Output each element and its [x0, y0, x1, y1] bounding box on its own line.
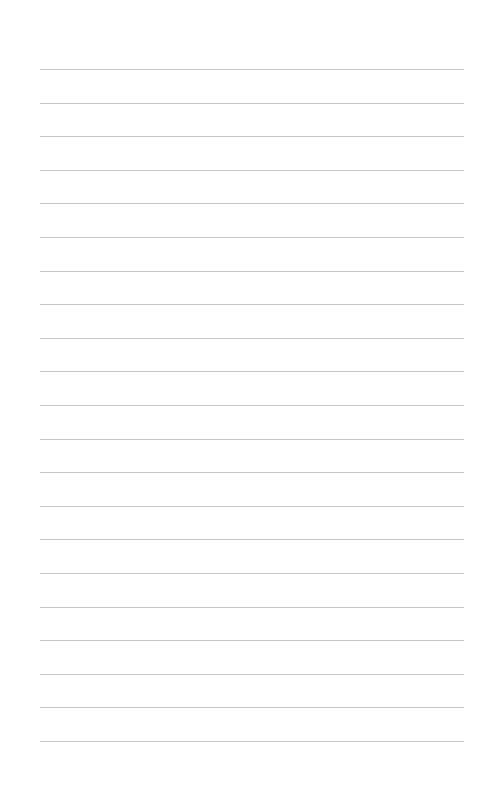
ruled-line	[40, 136, 464, 137]
ruled-line	[40, 674, 464, 675]
ruled-line	[40, 439, 464, 440]
ruled-line	[40, 506, 464, 507]
ruled-line	[40, 472, 464, 473]
ruled-line	[40, 338, 464, 339]
ruled-line	[40, 170, 464, 171]
ruled-line	[40, 707, 464, 708]
ruled-line	[40, 69, 464, 70]
ruled-line	[40, 271, 464, 272]
ruled-line	[40, 607, 464, 608]
ruled-line	[40, 203, 464, 204]
ruled-line	[40, 237, 464, 238]
ruled-line	[40, 304, 464, 305]
ruled-line	[40, 103, 464, 104]
ruled-line	[40, 539, 464, 540]
ruled-line	[40, 371, 464, 372]
lined-paper-page	[0, 0, 490, 809]
ruled-line	[40, 573, 464, 574]
ruled-line	[40, 741, 464, 742]
ruled-line	[40, 640, 464, 641]
ruled-line	[40, 405, 464, 406]
